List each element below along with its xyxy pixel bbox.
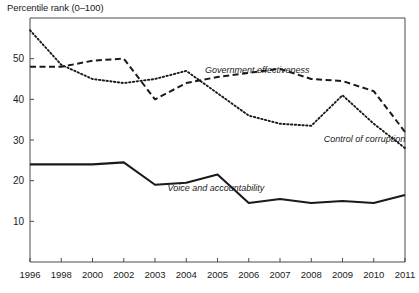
x-axis-tick-label: 2008 bbox=[301, 269, 322, 280]
x-axis-tick-label: 1996 bbox=[19, 269, 40, 280]
x-axis-tick-label: 2006 bbox=[238, 269, 259, 280]
x-axis-tick-label: 2002 bbox=[113, 269, 134, 280]
chart-plot-area: 1020304050 19961998200020022003200420052… bbox=[0, 0, 419, 293]
x-axis-tick-label: 2004 bbox=[176, 269, 197, 280]
y-axis-tick-label: 50 bbox=[13, 53, 25, 64]
x-axis-ticks: 1996199820002002200320042005200620072008… bbox=[19, 258, 415, 280]
x-axis-tick-label: 2003 bbox=[144, 269, 165, 280]
x-axis-tick-label: 1998 bbox=[51, 269, 72, 280]
series-label-voice-and-accountability: Voice and accountability bbox=[168, 183, 265, 193]
series-label-control-of-corruption: Control of corruption bbox=[324, 134, 406, 144]
y-axis-tick-label: 40 bbox=[13, 94, 25, 105]
x-axis-tick-label: 2009 bbox=[332, 269, 353, 280]
x-axis-tick-label: 2005 bbox=[207, 269, 228, 280]
data-series-group bbox=[30, 30, 405, 203]
x-axis-tick-label: 2011 bbox=[395, 269, 415, 280]
y-axis-tick-label: 30 bbox=[13, 135, 25, 146]
y-axis-tick-label: 20 bbox=[13, 175, 25, 186]
series-label-government-effectiveness: Government effectiveness bbox=[205, 65, 310, 75]
series-line-control-of-corruption bbox=[30, 30, 405, 148]
y-axis-ticks: 1020304050 bbox=[13, 53, 34, 227]
chart-container: Percentile rank (0–100) 1020304050 19961… bbox=[0, 0, 419, 293]
x-axis-tick-label: 2010 bbox=[363, 269, 384, 280]
y-axis-tick-label: 10 bbox=[13, 216, 25, 227]
x-axis-tick-label: 2007 bbox=[269, 269, 290, 280]
x-axis-tick-label: 2000 bbox=[82, 269, 103, 280]
